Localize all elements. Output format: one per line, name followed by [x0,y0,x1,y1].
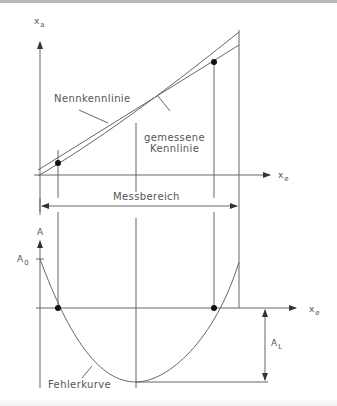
diagram-canvas: xa xe Nennkennlinie gemessene Kennlinie … [0,0,337,406]
lower-x-axis-label: xe [309,304,320,317]
upper-x-axis-label: xe [278,170,289,183]
a0-label: A0 [17,254,29,267]
upper-intersection-dot-left [55,160,61,166]
nominal-leader [79,110,108,123]
measured-characteristic-curve [38,32,239,176]
error-curve-label: Fehlerkurve [48,379,111,390]
measured-characteristic-label-2: Kennlinie [150,143,199,154]
upper-y-axis-label: xa [34,16,45,29]
nominal-characteristic-line [38,45,239,170]
measured-characteristic-label-1: gemessene [144,132,205,143]
error-curve [40,259,239,382]
lower-zero-dot-left [55,305,61,311]
bottom-edge [0,398,337,406]
measured-leader [158,96,170,111]
nominal-characteristic-label: Nennkennlinie [54,93,131,104]
range-label: Messbereich [113,191,180,202]
measurement-characteristic-diagram: xa xe Nennkennlinie gemessene Kennlinie … [0,0,337,406]
lower-y-axis-label: A [37,227,44,237]
top-border [0,0,337,3]
error-leader [82,366,92,378]
al-label: AL [271,338,282,351]
lower-zero-dot-right [211,305,217,311]
upper-intersection-dot-right [211,59,217,65]
